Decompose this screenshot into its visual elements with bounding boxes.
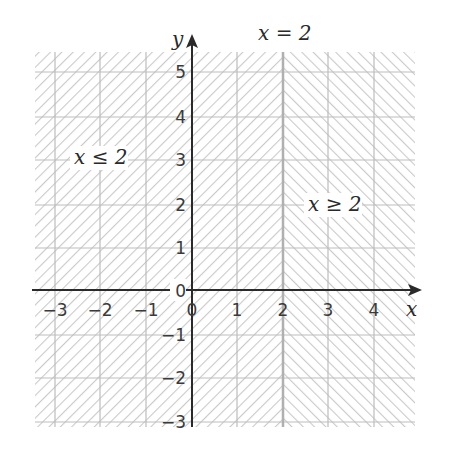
region-x-le-2	[35, 52, 283, 427]
x-tick: −3	[42, 300, 67, 320]
y-tick: −2	[161, 368, 186, 388]
region-x-ge-2	[283, 52, 415, 427]
x-tick: 0	[187, 300, 198, 320]
boundary-line-label: x = 2	[258, 21, 311, 45]
y-tick: 1	[175, 238, 186, 258]
x-tick: 1	[232, 300, 243, 320]
x-tick: 3	[323, 300, 334, 320]
x-tick: −1	[133, 300, 158, 320]
x-tick: 2	[278, 300, 289, 320]
x-tick: 4	[369, 300, 380, 320]
y-axis-label: y	[171, 27, 184, 51]
y-tick: 4	[175, 107, 186, 127]
y-tick: −3	[161, 412, 186, 432]
y-tick: −1	[161, 325, 186, 345]
x-tick: −2	[87, 300, 112, 320]
inequality-graph: −3 −2 −1 0 1 2 3 4 5 4 3 2 1 0 −1 −2 −3 …	[0, 0, 450, 453]
x-axis-label: x	[406, 297, 417, 321]
region-label-left: x ≤ 2	[74, 145, 127, 169]
y-tick: 0	[175, 281, 186, 301]
y-tick: 2	[175, 195, 186, 215]
y-tick: 3	[175, 150, 186, 170]
y-tick: 5	[175, 62, 186, 82]
region-label-right: x ≥ 2	[308, 192, 361, 216]
